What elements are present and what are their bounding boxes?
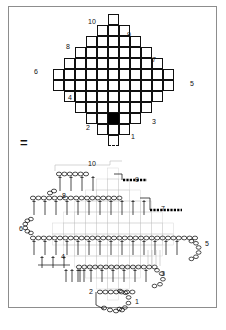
- chain-stitch-icon: [68, 236, 73, 240]
- ghost-grid-cell: [130, 223, 141, 234]
- figure-page: = 10987654321 10987654321: [0, 0, 226, 330]
- ghost-grid-cell: [86, 223, 97, 234]
- ghost-grid-cell: [75, 245, 86, 256]
- ghost-grid-cell: [108, 223, 119, 234]
- chain-stitch-icon: [106, 196, 111, 200]
- chain-stitch-icon: [194, 255, 199, 259]
- chart-label-1: 1: [131, 133, 135, 140]
- ghost-grid-cell: [97, 179, 108, 190]
- chain-stitch-icon: [30, 236, 35, 240]
- chain-stitch-icon: [79, 236, 84, 240]
- chain-stitch-icon: [78, 172, 83, 176]
- chain-stitch-icon: [83, 172, 88, 176]
- ghost-grid-cell: [152, 245, 163, 256]
- chain-stitch-icon: [41, 196, 46, 200]
- chain-stitch-icon: [149, 236, 154, 240]
- ghost-grid-cell: [130, 201, 141, 212]
- chain-stitch-icon: [194, 241, 199, 245]
- chain-stitch-icon: [196, 246, 201, 250]
- ghost-grid-cell: [75, 212, 86, 223]
- stitch-label-10: 10: [88, 160, 96, 167]
- chain-stitch-icon: [126, 301, 131, 305]
- ghost-grid-cell: [119, 212, 130, 223]
- ghost-grid-cell: [119, 223, 130, 234]
- chart-label-4: 4: [68, 94, 72, 101]
- ghost-grid-cell: [75, 223, 86, 234]
- stitch-label-9: 9: [135, 176, 139, 183]
- ghost-grid-cell: [64, 212, 75, 223]
- stitch-label-5: 5: [205, 240, 209, 247]
- chain-stitch-icon: [56, 172, 61, 176]
- ghost-grid-cell: [130, 212, 141, 223]
- chain-stitch-icon: [144, 236, 149, 240]
- ghost-grid-cell: [97, 212, 108, 223]
- chart-label-3: 3: [152, 118, 156, 125]
- chain-stitch-icon: [57, 236, 62, 240]
- chart-label-10: 10: [88, 18, 96, 25]
- chain-stitch-icon: [36, 236, 41, 240]
- ghost-grid-cell: [130, 190, 141, 201]
- ghost-grid-cell: [108, 179, 119, 190]
- ghost-grid-cell: [163, 223, 174, 234]
- chain-stitch-icon: [23, 226, 28, 230]
- chart-label-5: 5: [190, 80, 194, 87]
- ghost-grid-cell: [141, 212, 152, 223]
- chain-stitch-icon: [155, 236, 160, 240]
- chain-stitch-icon: [47, 196, 52, 200]
- chain-stitch-icon: [138, 236, 143, 240]
- chain-stitch-icon: [117, 196, 122, 200]
- chain-stitch-icon: [108, 290, 113, 294]
- chain-stitch-icon: [165, 236, 170, 240]
- chain-stitch-icon: [130, 290, 135, 294]
- ghost-grid-cell: [152, 212, 163, 223]
- chain-stitch-icon: [117, 236, 122, 240]
- chain-stitch-icon: [101, 236, 106, 240]
- ghost-grid-cell: [75, 201, 86, 212]
- chain-stitch-icon: [95, 236, 100, 240]
- stitch-label-2: 2: [89, 288, 93, 295]
- chain-stitch-icon: [113, 309, 118, 313]
- turn-chain-path: [140, 198, 150, 210]
- chain-stitch-icon: [90, 196, 95, 200]
- chain-stitch-icon: [41, 236, 46, 240]
- chain-stitch-icon: [30, 196, 35, 200]
- chain-stitch-icon: [47, 191, 52, 195]
- chain-stitch-icon: [176, 236, 181, 240]
- chain-stitch-icon: [95, 196, 100, 200]
- chain-stitch-icon: [67, 172, 72, 176]
- chain-stitch-icon: [158, 282, 163, 286]
- chain-stitch-icon: [74, 196, 79, 200]
- ghost-grid-cell: [119, 190, 130, 201]
- chain-stitch-icon: [68, 196, 73, 200]
- stitch-symbol-diagram: [0, 0, 226, 330]
- ghost-grid-cell: [108, 201, 119, 212]
- ghost-grid-cell: [97, 223, 108, 234]
- stitch-label-6: 6: [19, 225, 23, 232]
- chain-stitch-icon: [103, 290, 108, 294]
- ghost-grid-cell: [86, 245, 97, 256]
- stitch-label-1: 1: [135, 298, 139, 305]
- chain-stitch-icon: [133, 236, 138, 240]
- chain-stitch-icon: [52, 196, 57, 200]
- chain-stitch-icon: [36, 196, 41, 200]
- ghost-grid-cell: [64, 223, 75, 234]
- chain-stitch-icon: [123, 306, 128, 310]
- chain-stitch-icon: [155, 268, 160, 272]
- ghost-grid-cell: [152, 223, 163, 234]
- chart-label-7: 7: [152, 56, 156, 63]
- ghost-grid-cell: [108, 168, 119, 179]
- ghost-grid-cell: [130, 245, 141, 256]
- chart-label-2: 2: [86, 124, 90, 131]
- ghost-grid-cell: [97, 201, 108, 212]
- chain-stitch-icon: [90, 236, 95, 240]
- chain-stitch-icon: [84, 196, 89, 200]
- chain-stitch-icon: [128, 236, 133, 240]
- chain-stitch-icon: [126, 296, 131, 300]
- chain-stitch-icon: [122, 236, 127, 240]
- chain-stitch-icon: [79, 196, 84, 200]
- stitch-label-4: 4: [61, 253, 65, 260]
- chain-stitch-icon: [111, 236, 116, 240]
- chain-stitch-icon: [107, 308, 112, 312]
- ghost-grid-cell: [108, 212, 119, 223]
- stitch-label-7: 7: [161, 205, 165, 212]
